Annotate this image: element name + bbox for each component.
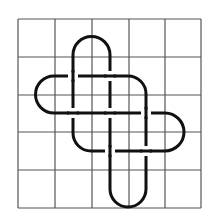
knot-diagram: [0, 0, 211, 222]
background: [0, 0, 211, 222]
